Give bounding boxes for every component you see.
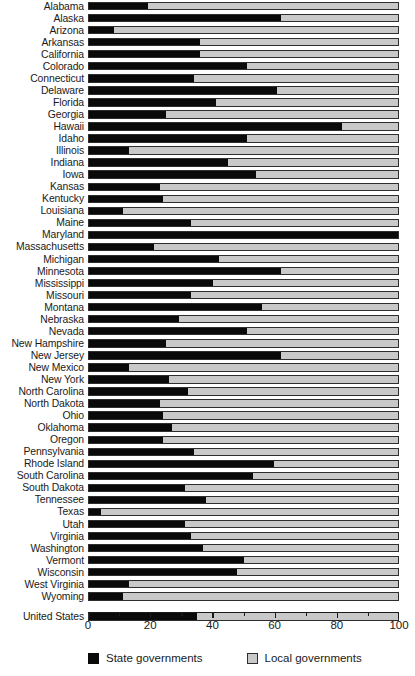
- row-label-missouri: Missouri: [0, 290, 88, 301]
- chart-row: Tennessee: [0, 494, 415, 506]
- bar-state-governments: [89, 208, 123, 214]
- bar-state-governments: [89, 75, 194, 81]
- bar-local-governments: [88, 243, 399, 251]
- x-axis-tick-label: 100: [389, 619, 408, 632]
- chart-row: Nebraska: [0, 313, 415, 325]
- chart-row: Montana: [0, 301, 415, 313]
- row-label-arkansas: Arkansas: [0, 37, 88, 48]
- chart-row: Texas: [0, 506, 415, 518]
- row-label-illinois: Illinois: [0, 145, 88, 156]
- bar-state-governments: [89, 3, 148, 9]
- bar-state-governments: [89, 220, 191, 226]
- bar-local-governments: [88, 98, 399, 106]
- row-label-minnesota: Minnesota: [0, 266, 88, 277]
- legend-item-state: State governments: [88, 652, 203, 665]
- row-label-california: California: [0, 49, 88, 60]
- bar-local-governments: [88, 592, 399, 600]
- row-spacer: [0, 602, 415, 610]
- chart-row: Georgia: [0, 108, 415, 120]
- chart-row: Missouri: [0, 289, 415, 301]
- bar-local-governments: [88, 544, 399, 552]
- row-label-wyoming: Wyoming: [0, 591, 88, 602]
- bar-state-governments: [89, 159, 228, 165]
- bar-state-governments: [89, 376, 169, 382]
- bar-local-governments: [88, 231, 399, 239]
- bar-local-governments: [88, 146, 399, 154]
- row-label-utah: Utah: [0, 519, 88, 530]
- bar-local-governments: [88, 158, 399, 166]
- bar-local-governments: [88, 351, 399, 359]
- x-axis-tick-label: 40: [206, 619, 219, 632]
- bar-local-governments: [88, 50, 399, 58]
- bar-local-governments: [88, 399, 399, 407]
- x-axis-tick: [150, 612, 151, 618]
- bar-state-governments: [89, 63, 247, 69]
- row-label-vermont: Vermont: [0, 555, 88, 566]
- chart-row: Wisconsin: [0, 566, 415, 578]
- bar-state-governments: [89, 39, 200, 45]
- row-label-kansas: Kansas: [0, 181, 88, 192]
- chart-row: Arizona: [0, 24, 415, 36]
- bar-state-governments: [89, 147, 129, 153]
- bar-local-governments: [88, 532, 399, 540]
- legend-swatch-local-icon: [247, 653, 258, 664]
- chart-row: Idaho: [0, 133, 415, 145]
- chart-row: Virginia: [0, 530, 415, 542]
- row-label-washington: Washington: [0, 543, 88, 554]
- x-axis-tick-label: 0: [85, 619, 91, 632]
- bar-state-governments: [89, 87, 277, 93]
- chart-row: Florida: [0, 96, 415, 108]
- row-label-new-hampshire: New Hampshire: [0, 338, 88, 349]
- bar-local-governments: [88, 520, 399, 528]
- chart-row: West Virginia: [0, 578, 415, 590]
- bar-local-governments: [88, 436, 399, 444]
- x-axis-tick-label: 60: [268, 619, 281, 632]
- bar-state-governments: [89, 521, 185, 527]
- row-label-wisconsin: Wisconsin: [0, 567, 88, 578]
- bar-state-governments: [89, 437, 163, 443]
- bar-local-governments: [88, 183, 399, 191]
- x-axis-tick: [398, 612, 399, 618]
- chart-row: Pennsylvania: [0, 446, 415, 458]
- bar-local-governments: [88, 448, 399, 456]
- bar-state-governments: [89, 27, 114, 33]
- bar-state-governments: [89, 51, 200, 57]
- row-label-nebraska: Nebraska: [0, 314, 88, 325]
- row-label-mississippi: Mississippi: [0, 278, 88, 289]
- bar-state-governments: [89, 256, 219, 262]
- bar-state-governments: [89, 569, 237, 575]
- chart-row: Michigan: [0, 253, 415, 265]
- bar-local-governments: [88, 423, 399, 431]
- bar-local-governments: [88, 134, 399, 142]
- row-label-connecticut: Connecticut: [0, 73, 88, 84]
- row-label-united-states: United States: [0, 611, 88, 622]
- chart-row: Iowa: [0, 169, 415, 181]
- chart-row: Alaska: [0, 12, 415, 24]
- row-label-south-carolina: South Carolina: [0, 470, 88, 481]
- x-axis-minor-tick: [306, 612, 307, 616]
- chart-row: New York: [0, 373, 415, 385]
- chart-row: California: [0, 48, 415, 60]
- bar-state-governments: [89, 280, 213, 286]
- bar-state-governments: [89, 400, 160, 406]
- bar-state-governments: [89, 123, 342, 129]
- bar-local-governments: [88, 122, 399, 130]
- bar-state-governments: [89, 533, 191, 539]
- x-axis-tick: [337, 612, 338, 618]
- chart-row: New Jersey: [0, 349, 415, 361]
- row-label-alabama: Alabama: [0, 1, 88, 12]
- row-label-hawaii: Hawaii: [0, 121, 88, 132]
- bar-state-governments: [89, 171, 256, 177]
- bar-local-governments: [88, 508, 399, 516]
- bar-local-governments: [88, 2, 399, 10]
- chart-row: Washington: [0, 542, 415, 554]
- bar-state-governments: [89, 352, 281, 358]
- chart-legend: State governmentsLocal governments: [88, 648, 408, 668]
- chart-row: Connecticut: [0, 72, 415, 84]
- row-label-ohio: Ohio: [0, 410, 88, 421]
- bar-local-governments: [88, 460, 399, 468]
- bar-state-governments: [89, 316, 179, 322]
- chart-row: Massachusetts: [0, 241, 415, 253]
- row-label-rhode-island: Rhode Island: [0, 458, 88, 469]
- bar-state-governments: [89, 424, 172, 430]
